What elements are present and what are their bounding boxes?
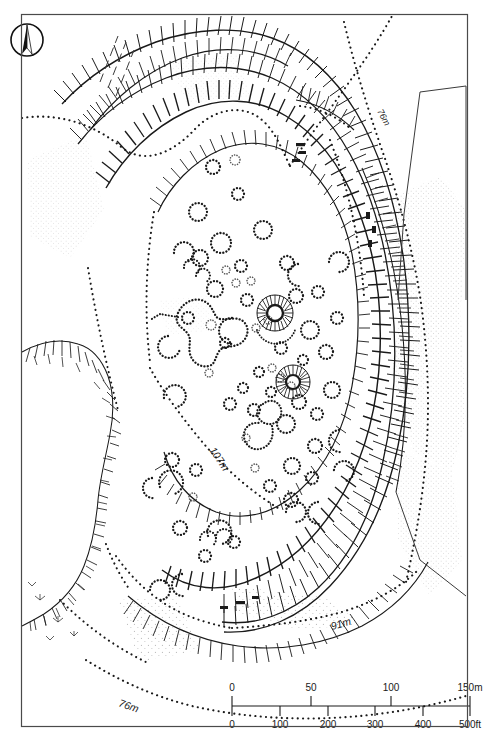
- scale-label-metric-100: 100: [383, 682, 400, 693]
- scale-label-imperial-500ft: 500ft: [459, 719, 481, 730]
- scale-label-imperial-200: 200: [320, 719, 337, 730]
- scale-label-metric-0: 0: [229, 682, 235, 693]
- scale-label-metric-50: 50: [305, 682, 317, 693]
- scale-label-imperial-0: 0: [229, 719, 235, 730]
- scale-label-imperial-400: 400: [415, 719, 432, 730]
- survey-plan-page: 76m 91m 107m 76m: [0, 0, 488, 742]
- hillfort-survey-map: 76m 91m 107m 76m: [0, 0, 488, 742]
- scale-label-metric-150m: 150m: [457, 682, 482, 693]
- north-arrow: [11, 24, 43, 56]
- scale-label-imperial-300: 300: [367, 719, 384, 730]
- scale-label-imperial-100: 100: [272, 719, 289, 730]
